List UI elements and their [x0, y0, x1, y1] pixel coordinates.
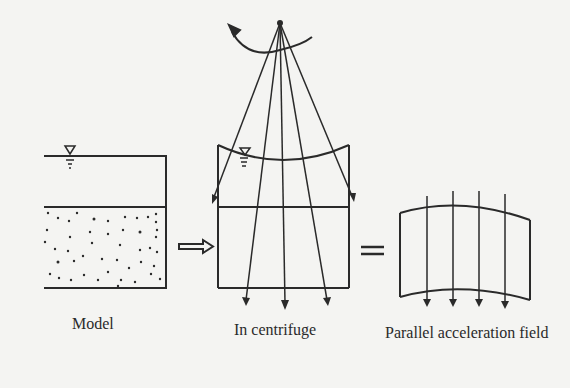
parallel-arrowheads	[423, 299, 509, 309]
model-container	[44, 156, 166, 288]
hollow-right-arrow-icon	[179, 240, 213, 253]
parallel-acceleration-arrows	[427, 191, 505, 304]
rotation-arrow-icon	[229, 25, 240, 36]
curved-water-surface	[218, 145, 349, 160]
equals-sign-icon	[361, 247, 384, 254]
centrifuge-label: In centrifuge	[234, 320, 316, 340]
parallel-field-container	[400, 205, 530, 300]
model-label: Model	[72, 314, 114, 334]
soil-particles	[44, 212, 161, 287]
water-level-icon	[240, 148, 250, 166]
parallel-field-label: Parallel acceleration field	[385, 323, 555, 343]
radial-acceleration-rays	[214, 23, 352, 303]
